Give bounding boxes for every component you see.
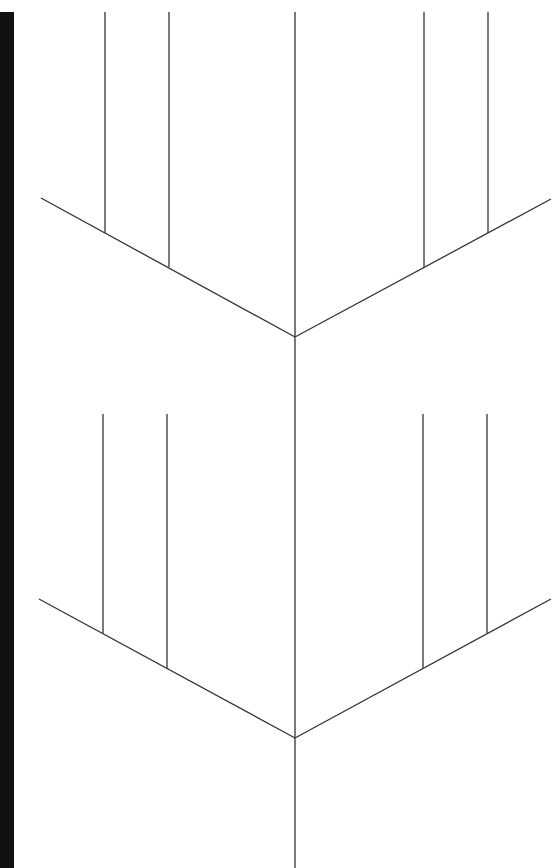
upper-left-diagonal-line — [41, 198, 295, 337]
upper-branch-group — [41, 12, 551, 337]
upper-right-diagonal-line — [295, 199, 551, 337]
branching-line-diagram — [0, 0, 555, 868]
